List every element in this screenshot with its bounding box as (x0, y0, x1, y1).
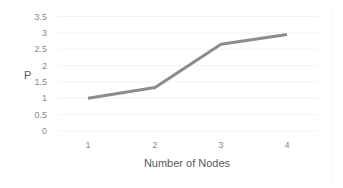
y-tick-label: 3 (42, 28, 47, 38)
x-tick-label: 1 (85, 140, 90, 150)
y-tick-label: 1 (42, 93, 47, 103)
gridlines (58, 17, 318, 132)
x-axis-label: Number of Nodes (144, 157, 231, 169)
y-tick-label: 0.5 (34, 110, 47, 120)
y-axis-label: P (24, 69, 31, 81)
y-tick-label: 2.5 (34, 44, 47, 54)
x-axis-ticks: 1234 (85, 140, 289, 150)
y-tick-label: 3.5 (34, 12, 47, 22)
line-chart: 00.511.522.533.5 1234 P Number of Nodes (0, 0, 343, 188)
x-tick-label: 3 (218, 140, 223, 150)
y-tick-label: 1.5 (34, 77, 47, 87)
x-tick-label: 2 (152, 140, 157, 150)
y-tick-label: 0 (42, 126, 47, 136)
y-tick-label: 2 (42, 61, 47, 71)
x-tick-label: 4 (284, 140, 289, 150)
data-series-line (88, 35, 287, 99)
y-axis-ticks: 00.511.522.533.5 (34, 12, 47, 137)
